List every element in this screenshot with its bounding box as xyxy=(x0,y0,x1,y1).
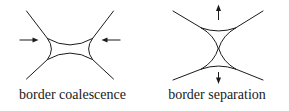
concave-square-cell xyxy=(48,39,93,60)
arrow-top-head xyxy=(216,5,221,12)
arrow-left-inward xyxy=(20,37,39,42)
arrow-top-outward xyxy=(216,5,221,21)
arrow-left-head xyxy=(33,37,39,42)
arc-bottom xyxy=(48,53,93,60)
diagonal-rays xyxy=(173,11,263,80)
panel-border-coalescence: border coalescence xyxy=(0,0,145,111)
upper-concave-triangle xyxy=(202,28,236,49)
lower-concave-triangle xyxy=(202,49,236,70)
arrow-right-head xyxy=(102,37,108,42)
concave-square-border-diagram xyxy=(0,0,145,86)
ray-top-right xyxy=(93,11,114,39)
ray-top-right xyxy=(236,11,264,28)
arrow-bottom-head xyxy=(216,78,221,85)
ray-top-left xyxy=(173,11,202,28)
figure-border-transitions: border coalescence xyxy=(0,0,289,111)
ray-top-left xyxy=(27,11,48,39)
arc-top-edge xyxy=(202,28,236,31)
arc-left xyxy=(48,39,52,60)
arc-top xyxy=(48,39,93,46)
arrow-right-inward xyxy=(102,37,121,42)
ray-bottom-left xyxy=(27,60,48,80)
arrow-bottom-outward xyxy=(216,72,221,84)
hourglass-border-diagram xyxy=(145,0,289,86)
arc-bottom-edge xyxy=(202,66,236,69)
ray-bottom-right xyxy=(93,60,114,80)
panel-border-separation: border separation xyxy=(145,0,289,111)
ray-bottom-left xyxy=(173,69,202,80)
arc-right xyxy=(89,39,93,60)
caption-border-separation: border separation xyxy=(145,86,289,104)
caption-border-coalescence: border coalescence xyxy=(0,86,145,104)
ray-bottom-right xyxy=(236,69,264,80)
